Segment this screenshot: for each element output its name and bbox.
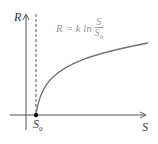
log-curve [36,43,148,115]
formula-fraction: S S0 [95,17,104,42]
s0-tick-label: S0 [33,117,43,133]
formula-lhs: R = k ln [56,22,92,34]
formula-annotation: R = k ln S S0 [56,17,103,42]
formula-denominator: S0 [95,28,104,42]
x-axis-label: S [142,120,148,135]
y-axis-label: R [14,10,21,25]
s0-sub: 0 [39,125,43,133]
